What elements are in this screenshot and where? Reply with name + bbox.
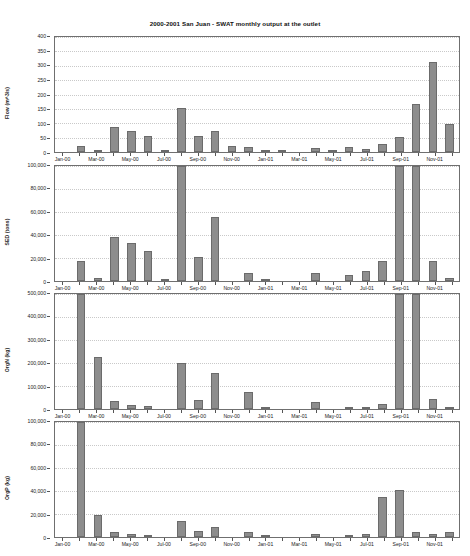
x-tick-mark bbox=[181, 282, 182, 285]
bar-slot bbox=[374, 294, 391, 409]
x-axis: Jan-00Mar-00May-00Jul-00Sep-00Nov-00Jan-… bbox=[54, 538, 460, 554]
x-tick-mark bbox=[215, 153, 216, 156]
bar bbox=[345, 147, 354, 152]
y-tick-label: 0 bbox=[43, 150, 46, 156]
bar bbox=[395, 137, 404, 152]
bar bbox=[395, 294, 404, 409]
bar bbox=[127, 534, 136, 537]
bar-slot bbox=[257, 422, 274, 537]
bar-slot bbox=[190, 422, 207, 537]
bar bbox=[110, 127, 119, 152]
bar bbox=[345, 407, 354, 409]
bar-slot bbox=[374, 166, 391, 281]
bar-slot bbox=[408, 37, 425, 152]
x-tick-mark bbox=[418, 410, 419, 413]
bar bbox=[177, 108, 186, 152]
x-tick-mark bbox=[113, 538, 114, 541]
bar bbox=[144, 136, 153, 152]
x-tick-mark bbox=[79, 282, 80, 285]
bar bbox=[194, 257, 203, 281]
x-tick-mark bbox=[384, 282, 385, 285]
bar-slot bbox=[341, 37, 358, 152]
y-tick-label: 60,000 bbox=[30, 465, 46, 471]
x-tick-mark bbox=[418, 282, 419, 285]
bar-slot bbox=[90, 422, 107, 537]
x-tick-label: Jan-00 bbox=[55, 541, 71, 547]
bar-series bbox=[55, 294, 459, 409]
bar-series bbox=[55, 37, 459, 152]
bar-slot bbox=[207, 422, 224, 537]
bar bbox=[378, 261, 387, 281]
plot-area bbox=[54, 421, 460, 538]
x-tick-label: Nov-00 bbox=[223, 413, 239, 419]
bar-slot bbox=[140, 37, 157, 152]
bar-slot bbox=[358, 37, 375, 152]
bar bbox=[211, 217, 220, 281]
y-tick-label: 0 bbox=[43, 535, 46, 541]
plot-area bbox=[54, 165, 460, 282]
y-tick-label: 100,000 bbox=[28, 418, 46, 424]
bar-slot bbox=[324, 37, 341, 152]
x-tick-mark bbox=[384, 153, 385, 156]
bar bbox=[244, 147, 253, 152]
x-tick-mark bbox=[113, 153, 114, 156]
x-tick-label: Nov-00 bbox=[223, 541, 239, 547]
bar bbox=[445, 124, 454, 152]
x-tick-mark bbox=[249, 410, 250, 413]
bar bbox=[395, 166, 404, 281]
x-tick-mark bbox=[249, 282, 250, 285]
x-tick-mark bbox=[452, 153, 453, 156]
x-tick-mark bbox=[316, 538, 317, 541]
bar bbox=[194, 136, 203, 152]
bar-slot bbox=[207, 166, 224, 281]
bar bbox=[194, 400, 203, 409]
y-tick-label: 60,000 bbox=[30, 209, 46, 215]
y-tick-label: 20,000 bbox=[30, 256, 46, 262]
bar bbox=[211, 373, 220, 409]
bar-slot bbox=[190, 166, 207, 281]
bar bbox=[362, 534, 371, 537]
bar-slot bbox=[73, 166, 90, 281]
x-tick-mark bbox=[181, 410, 182, 413]
chart-page: 2000-2001 San Juan - SWAT monthly output… bbox=[0, 0, 470, 556]
x-tick-mark bbox=[282, 538, 283, 541]
bar-slot bbox=[90, 37, 107, 152]
y-tick-label: 50 bbox=[40, 135, 46, 141]
bar-slot bbox=[173, 166, 190, 281]
x-tick-label: Sep-00 bbox=[190, 413, 206, 419]
bar-slot bbox=[358, 166, 375, 281]
x-tick-mark bbox=[79, 410, 80, 413]
x-tick-label: Jan-01 bbox=[258, 541, 274, 547]
bar bbox=[445, 532, 454, 537]
bar bbox=[77, 422, 86, 537]
bar-slot bbox=[307, 422, 324, 537]
x-tick-label: Nov-00 bbox=[223, 156, 239, 162]
bar-slot bbox=[425, 37, 442, 152]
bar-slot bbox=[56, 294, 73, 409]
bar-slot bbox=[173, 294, 190, 409]
bar bbox=[194, 531, 203, 537]
x-tick-mark bbox=[282, 153, 283, 156]
x-tick-label: Mar-00 bbox=[88, 285, 104, 291]
bar bbox=[228, 146, 237, 152]
x-tick-mark bbox=[282, 282, 283, 285]
x-tick-label: Nov-01 bbox=[426, 285, 442, 291]
bar bbox=[127, 405, 136, 409]
x-tick-label: Jul-00 bbox=[157, 413, 171, 419]
bar-slot bbox=[190, 37, 207, 152]
bar bbox=[94, 278, 103, 281]
y-tick-label: 80,000 bbox=[30, 441, 46, 447]
x-tick-mark bbox=[147, 153, 148, 156]
bar-slot bbox=[324, 294, 341, 409]
bar-slot bbox=[274, 37, 291, 152]
x-tick-label: Mar-01 bbox=[291, 541, 307, 547]
x-tick-label: Nov-01 bbox=[426, 541, 442, 547]
bar-slot bbox=[341, 166, 358, 281]
bar-slot bbox=[90, 166, 107, 281]
bar-slot bbox=[307, 37, 324, 152]
bar bbox=[412, 104, 421, 152]
x-tick-mark bbox=[79, 153, 80, 156]
bar-slot bbox=[291, 166, 308, 281]
y-axis-ticks: 020,00040,00060,00080,000100,000 bbox=[14, 165, 50, 282]
bar-slot bbox=[224, 166, 241, 281]
